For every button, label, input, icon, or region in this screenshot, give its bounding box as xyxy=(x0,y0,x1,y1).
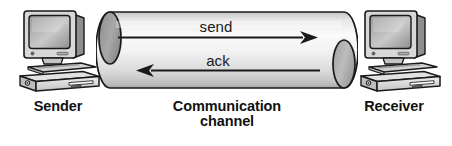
receiver-caption: Receiver xyxy=(336,99,452,114)
communication-diagram: send ack xyxy=(0,0,452,146)
ack-message-label: ack xyxy=(96,53,358,68)
channel-caption: Communication channel xyxy=(120,99,334,146)
sender-caption: Sender xyxy=(0,99,116,114)
send-message-label: send xyxy=(96,19,358,34)
receiver-computer-icon xyxy=(352,4,444,92)
sender-computer-icon xyxy=(11,4,103,92)
communication-channel-cylinder: send ack xyxy=(96,8,358,92)
